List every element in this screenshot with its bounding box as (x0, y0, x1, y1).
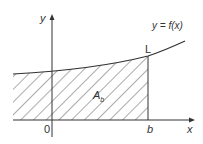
origin-label: 0 (44, 124, 50, 135)
area-subscript: b (100, 96, 104, 103)
shaded-area (13, 56, 148, 120)
function-label: y = f(x) (152, 21, 183, 31)
b-label: b (147, 124, 153, 135)
x-axis-arrow-icon (189, 118, 195, 123)
point-label: L (145, 44, 151, 55)
y-axis-arrow-icon (50, 14, 55, 20)
y-axis-label: y (40, 13, 46, 24)
area-label: Ab (93, 90, 104, 103)
x-axis-label: x (187, 124, 193, 135)
